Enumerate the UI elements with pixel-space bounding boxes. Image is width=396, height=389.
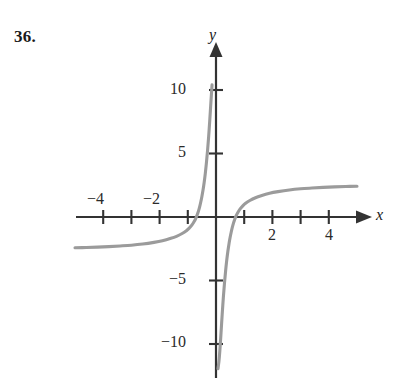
y-axis-name-label: y: [209, 26, 216, 44]
y-tick-label-10: 10: [170, 80, 186, 98]
x-axis-name-label: x: [376, 206, 383, 224]
y-tick-label-minus10: −10: [161, 333, 186, 351]
y-axis-arrowhead: [210, 42, 223, 57]
graph-plot: [0, 0, 396, 389]
x-tick-label-minus4: −4: [87, 190, 104, 208]
curve-left-branch: [75, 85, 212, 248]
y-tick-label-5: 5: [178, 143, 186, 161]
x-tick-label-4: 4: [325, 226, 333, 244]
x-axis-arrowhead: [356, 211, 372, 224]
x-tick-label-2: 2: [268, 226, 276, 244]
y-tick-label-minus5: −5: [169, 270, 186, 288]
curve-right-branch: [218, 186, 357, 368]
figure-container: 36. y: [0, 0, 396, 389]
x-tick-label-minus2: −2: [143, 190, 160, 208]
